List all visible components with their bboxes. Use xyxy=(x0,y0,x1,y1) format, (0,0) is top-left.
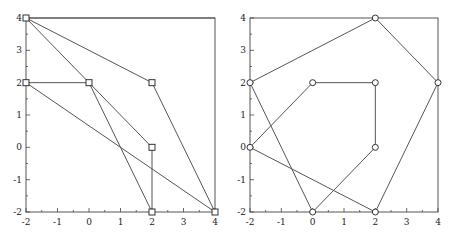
y-tick-label: -1 xyxy=(13,175,22,185)
segment xyxy=(375,18,438,83)
square-marker xyxy=(86,80,92,86)
square-marker xyxy=(23,15,29,21)
y-tick-label: 0 xyxy=(240,142,246,152)
circle-marker xyxy=(435,80,441,86)
plot-frame xyxy=(250,18,438,212)
line-segments xyxy=(26,18,215,212)
plot-1: -2-101234-2-101234 xyxy=(13,13,218,227)
y-tick-label: 4 xyxy=(16,13,22,23)
chart-canvas: -2-101234-2-101234-2-101234-2-101234 xyxy=(0,0,455,236)
y-tick-label: 2 xyxy=(16,78,22,88)
x-tick-label: -2 xyxy=(246,217,255,227)
x-tick-label: 0 xyxy=(86,217,92,227)
segment xyxy=(152,83,215,212)
segment xyxy=(250,18,375,83)
axes: -2-101234-2-101234 xyxy=(13,13,218,227)
circle-marker xyxy=(372,15,378,21)
y-tick-label: 3 xyxy=(16,45,22,55)
x-tick-label: 3 xyxy=(404,217,410,227)
y-tick-label: 1 xyxy=(240,110,246,120)
segment xyxy=(313,147,376,212)
x-tick-label: 4 xyxy=(435,217,441,227)
segment xyxy=(250,147,375,212)
x-tick-label: -1 xyxy=(53,217,62,227)
y-tick-label: -2 xyxy=(237,207,246,217)
x-tick-label: 1 xyxy=(118,217,124,227)
x-tick-label: -1 xyxy=(277,217,286,227)
segment xyxy=(250,83,313,212)
square-marker xyxy=(149,144,155,150)
square-marker xyxy=(149,209,155,215)
markers xyxy=(247,15,441,215)
circle-marker xyxy=(372,209,378,215)
x-tick-label: 0 xyxy=(310,217,316,227)
segment xyxy=(26,18,152,83)
circle-marker xyxy=(372,144,378,150)
x-tick-label: 2 xyxy=(372,217,378,227)
x-tick-label: 3 xyxy=(181,217,187,227)
y-tick-label: 1 xyxy=(16,110,22,120)
y-tick-label: -2 xyxy=(13,207,22,217)
y-tick-label: 4 xyxy=(240,13,246,23)
y-tick-label: -1 xyxy=(237,175,246,185)
line-segments xyxy=(250,18,438,212)
segment xyxy=(26,83,215,212)
circle-marker xyxy=(247,144,253,150)
circle-marker xyxy=(310,80,316,86)
circle-marker xyxy=(372,80,378,86)
y-tick-label: 2 xyxy=(240,78,246,88)
square-marker xyxy=(149,80,155,86)
y-tick-label: 3 xyxy=(240,45,246,55)
y-tick-label: 0 xyxy=(16,142,22,152)
circle-marker xyxy=(310,209,316,215)
square-marker xyxy=(212,209,218,215)
x-tick-label: 4 xyxy=(212,217,218,227)
circle-marker xyxy=(247,80,253,86)
segment xyxy=(375,83,438,212)
x-tick-label: -2 xyxy=(22,217,31,227)
plot-2: -2-101234-2-101234 xyxy=(237,13,441,227)
x-tick-label: 1 xyxy=(341,217,347,227)
segment xyxy=(250,83,313,148)
square-marker xyxy=(23,80,29,86)
x-tick-label: 2 xyxy=(149,217,155,227)
